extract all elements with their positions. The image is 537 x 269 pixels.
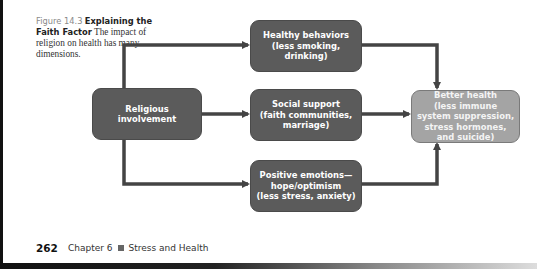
better-health-detail: (less immune system suppression, stress … <box>416 101 515 143</box>
healthy-behaviors-detail: (less smoking, drinking) <box>255 41 357 62</box>
arrow-to-positive-emotions <box>124 140 248 184</box>
page-bottom-edge <box>0 263 537 269</box>
better-health-title: Better health <box>434 90 497 101</box>
positive-emotions-box: Positive emotions—hope/optimism (less st… <box>250 160 362 212</box>
better-health-box: Better health (less immune system suppre… <box>411 90 520 143</box>
religious-involvement-label: Religious involvement <box>97 104 197 125</box>
social-support-box: Social support (faith communities, marri… <box>250 89 362 141</box>
page-footer: 262 Chapter 6 Stress and Health <box>36 242 208 254</box>
square-bullet-icon <box>118 245 124 251</box>
positive-emotions-detail: (less stress, anxiety) <box>257 191 356 202</box>
religious-involvement-box: Religious involvement <box>92 88 202 140</box>
positive-emotions-title: Positive emotions—hope/optimism <box>255 170 357 191</box>
page-number: 262 <box>36 242 58 254</box>
healthy-behaviors-title: Healthy behaviors <box>263 30 349 41</box>
social-support-title: Social support <box>272 99 340 110</box>
healthy-behaviors-box: Healthy behaviors (less smoking, drinkin… <box>250 20 362 72</box>
arrow-to-healthy-behaviors <box>124 45 248 88</box>
arrow-emotions-to-better-health <box>362 144 437 184</box>
chapter-label: Chapter 6 <box>68 243 113 253</box>
social-support-detail: (faith communities, marriage) <box>255 110 357 131</box>
section-label: Stress and Health <box>129 243 209 253</box>
arrow-healthy-to-better-health <box>362 45 437 88</box>
